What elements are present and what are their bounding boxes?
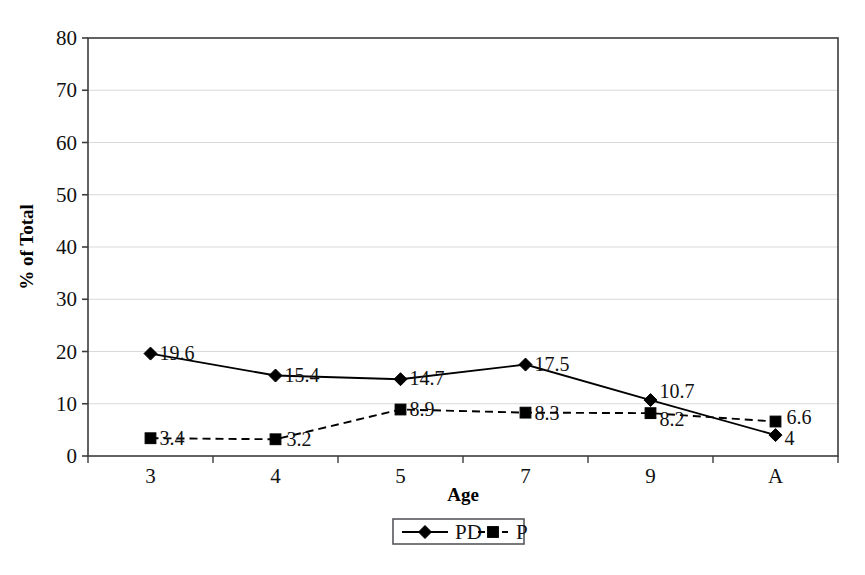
y-axis-tick-label: 60 [56,131,77,155]
data-point-label: 4 [785,427,795,449]
chart-container: 01020304050607080 34579A 19.615.414.717.… [0,0,865,575]
square-marker [270,434,281,445]
chart-legend: PDP [393,519,528,544]
x-axis-tick-label: 9 [645,464,656,488]
data-point-label: 3.2 [287,428,312,450]
legend-label: P [516,520,528,544]
square-marker [645,408,656,419]
chart-background [0,0,865,575]
y-axis-tick-label: 50 [56,183,77,207]
data-point-label: 10.7 [660,380,695,402]
square-marker [770,416,781,427]
y-axis-tick-label: 30 [56,287,77,311]
x-axis-tick-label: A [768,464,784,488]
y-axis-tick-label: 10 [56,392,77,416]
y-axis-tick-label: 0 [67,444,78,468]
square-marker [395,404,406,415]
square-marker [488,527,499,538]
x-axis-tick-label: 3 [145,464,156,488]
data-point-label: 17.5 [535,353,570,375]
data-point-label: 14.7 [410,367,445,389]
data-point-label: 8.2 [660,408,685,430]
data-point-label: 6.6 [787,406,812,428]
x-axis-title: Age [447,484,479,505]
line-chart: 01020304050607080 34579A 19.615.414.717.… [0,0,865,575]
x-axis-tick-label: 4 [270,464,281,488]
y-axis-title: % of Total [16,204,37,290]
square-marker [145,433,156,444]
data-point-label: 8.9 [410,398,435,420]
data-point-label: 19.6 [160,342,195,364]
y-axis-tick-label: 80 [56,26,77,50]
y-axis-tick-label: 20 [56,340,77,364]
x-axis-tick-label: 7 [520,464,531,488]
data-point-label: 8.3 [535,402,560,424]
legend-label: PD [455,520,482,544]
x-axis-tick-label: 5 [395,464,406,488]
y-axis-tick-label: 40 [56,235,77,259]
data-point-label: 3.4 [160,427,185,449]
data-point-label: 15.4 [285,364,320,386]
y-axis-tick-label: 70 [56,78,77,102]
square-marker [520,407,531,418]
